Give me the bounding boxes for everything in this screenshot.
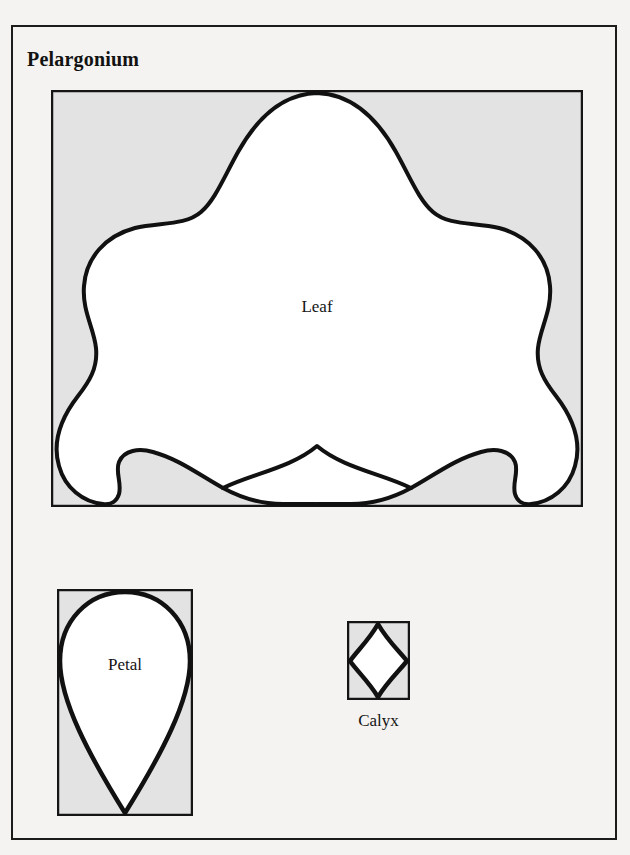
figure-calyx-caption: Calyx: [330, 711, 427, 731]
botanical-plate: Pelargonium Leaf Petal Calyx: [0, 0, 630, 855]
figure-petal-caption: Petal: [57, 655, 193, 675]
figure-petal: [57, 589, 193, 816]
figure-calyx: [347, 621, 410, 700]
figure-leaf-caption: Leaf: [51, 297, 583, 317]
page-title: Pelargonium: [27, 48, 139, 71]
